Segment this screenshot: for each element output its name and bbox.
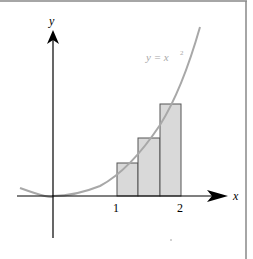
curve-label: y = x 2	[145, 49, 184, 63]
curve-label-base: y = x	[145, 51, 169, 63]
riemann-sum-diagram: y x 1 2 y = x 2	[0, 0, 253, 259]
x-axis-label: x	[232, 189, 239, 203]
curve-label-exponent: 2	[180, 49, 184, 57]
riemann-rectangles	[117, 104, 181, 196]
speck	[170, 239, 172, 241]
x-tick-1: 1	[113, 201, 119, 215]
y-axis-label: y	[48, 14, 55, 28]
rectangle-1	[117, 163, 138, 196]
figure-frame: y x 1 2 y = x 2	[0, 0, 253, 259]
rectangle-2	[138, 138, 160, 196]
rectangle-3	[160, 104, 181, 196]
x-tick-2: 2	[177, 201, 183, 215]
